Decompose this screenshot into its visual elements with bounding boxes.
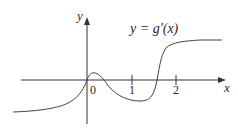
tick-label-0: 0	[90, 83, 96, 97]
tick-label-2: 2	[173, 83, 179, 97]
tick-label-1: 1	[129, 83, 135, 97]
x-axis-label: x	[223, 80, 230, 95]
curve-label: y = g′(x)	[128, 21, 179, 37]
curve-g-prime	[13, 40, 222, 112]
y-axis-label: y	[75, 8, 83, 23]
graph: y x 0 1 2 y = g′(x)	[0, 0, 238, 132]
y-axis-arrow-icon	[84, 17, 90, 25]
